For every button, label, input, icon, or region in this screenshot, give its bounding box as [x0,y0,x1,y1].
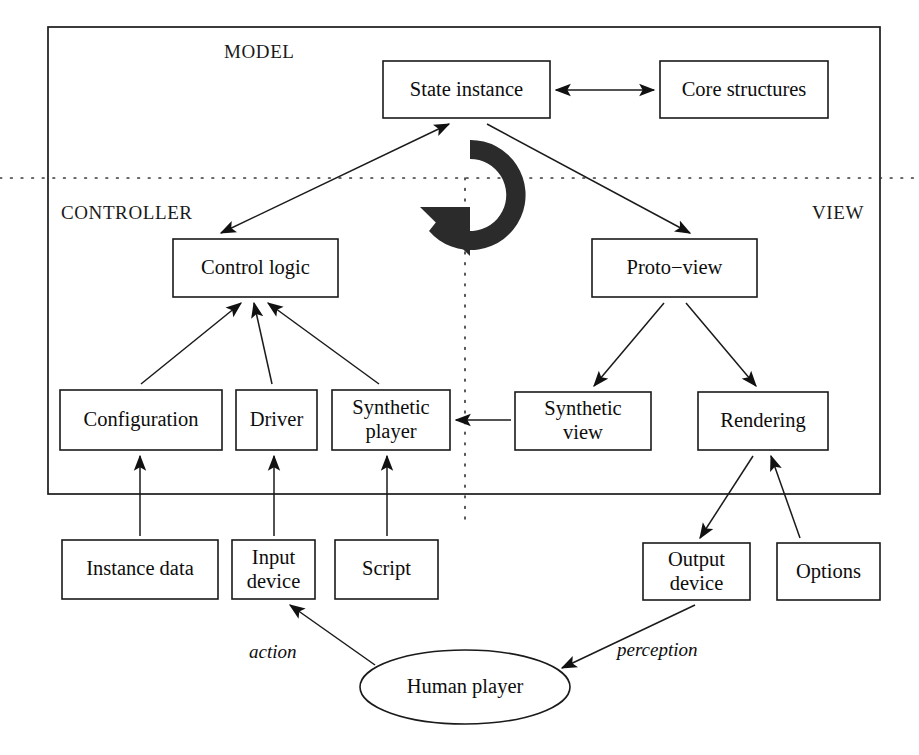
node-label-proto-view: Proto−view [627,256,723,278]
node-rendering: Rendering [698,392,828,450]
node-core-structures: Core structures [660,61,828,118]
diagram-root: MODEL CONTROLLER VIEW [0,0,919,755]
node-label-output-device-line1: Output [668,548,725,571]
node-label-instance-data: Instance data [86,557,194,579]
zone-label-model: MODEL [224,41,295,62]
edge-label-action: action [249,641,297,662]
node-label-driver: Driver [250,408,304,430]
node-output-device: Output device [643,543,750,600]
node-label-control-logic: Control logic [201,256,310,279]
node-label-input-device-line2: device [247,570,301,592]
node-control-logic: Control logic [173,239,338,297]
node-input-device: Input device [232,540,315,599]
edge-options-rendering [771,456,800,538]
edge-human-input [290,605,375,665]
node-label-core-structures: Core structures [682,78,807,100]
edge-synthplayer-control [268,303,379,384]
edge-proto-synthview [594,303,664,386]
node-label-synthetic-view-line1: Synthetic [544,397,621,420]
node-options: Options [777,543,880,600]
node-configuration: Configuration [60,390,222,450]
zone-label-view: VIEW [812,202,864,223]
edge-configuration-control [141,303,241,384]
node-label-rendering: Rendering [720,409,805,432]
node-label-synthetic-player-line1: Synthetic [352,396,429,419]
node-script: Script [335,540,438,599]
node-driver: Driver [236,390,317,450]
edge-driver-control [254,303,272,384]
node-label-script: Script [362,557,411,580]
edge-proto-rendering [686,303,756,386]
node-human-player: Human player [360,650,570,724]
node-label-configuration: Configuration [83,408,198,431]
node-label-synthetic-view-line2: view [563,421,603,443]
node-state-instance: State instance [383,61,550,118]
edge-rendering-outputdev [700,456,753,538]
node-proto-view: Proto−view [592,239,757,297]
mvc-architecture-diagram: MODEL CONTROLLER VIEW [0,0,919,755]
edge-label-perception: perception [615,639,698,660]
node-label-input-device-line1: Input [252,546,296,569]
circular-refresh-arrow-icon [420,140,526,256]
node-instance-data: Instance data [62,540,218,599]
node-synthetic-player: Synthetic player [332,390,450,450]
node-label-output-device-line2: device [670,572,724,594]
node-label-human-player: Human player [407,675,524,698]
node-synthetic-view: Synthetic view [515,392,651,450]
node-label-state-instance: State instance [410,78,523,100]
zone-label-controller: CONTROLLER [61,202,193,223]
node-label-synthetic-player-line2: player [365,420,416,443]
node-label-options: Options [796,560,861,583]
